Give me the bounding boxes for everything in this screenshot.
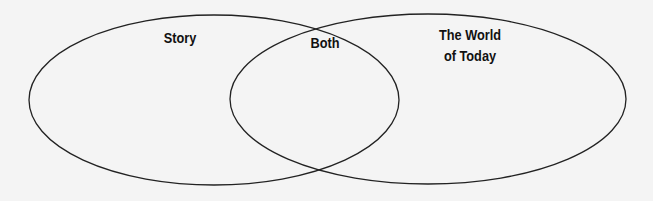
world-of-today-circle — [230, 14, 626, 184]
story-label: Story — [155, 29, 206, 47]
world-label-line2: of Today — [432, 47, 509, 65]
venn-diagram — [0, 0, 653, 201]
both-label: Both — [304, 34, 347, 52]
world-label-line1: The World — [432, 26, 509, 44]
